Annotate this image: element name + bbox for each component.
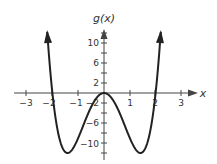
- x-axis-arrow-icon: [188, 90, 198, 97]
- x-axis-label: x: [199, 87, 207, 100]
- x-tick-label: −1: [69, 98, 82, 108]
- y-tick-label: 2: [93, 78, 99, 88]
- graph: −3 −2 −1 1 2 3 10 6 2 −2 −6 −10 g(x) x: [0, 0, 217, 164]
- y-tick-label: −10: [80, 139, 99, 149]
- y-axis-label: g(x): [93, 12, 115, 25]
- y-axis-arrow-icon: [101, 29, 108, 39]
- y-tick-label: −6: [86, 118, 100, 128]
- x-tick-label: 3: [178, 98, 184, 108]
- y-tick-label: 10: [88, 38, 100, 48]
- y-tick-label: 6: [93, 58, 99, 68]
- x-tick-label: −3: [19, 98, 32, 108]
- x-tick-label: 1: [127, 98, 133, 108]
